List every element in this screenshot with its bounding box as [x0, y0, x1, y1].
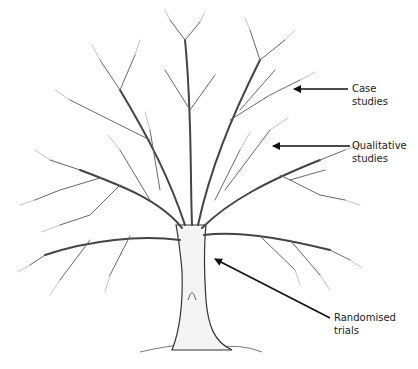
- label-case-studies: Case studies: [352, 82, 388, 108]
- label-randomised-trials: Randomised trials: [334, 311, 396, 337]
- randomised-trials-arrow: [215, 259, 330, 318]
- label-qualitative-studies: Qualitative studies: [352, 139, 407, 165]
- figure: Case studies Qualitative studies Randomi…: [0, 0, 418, 369]
